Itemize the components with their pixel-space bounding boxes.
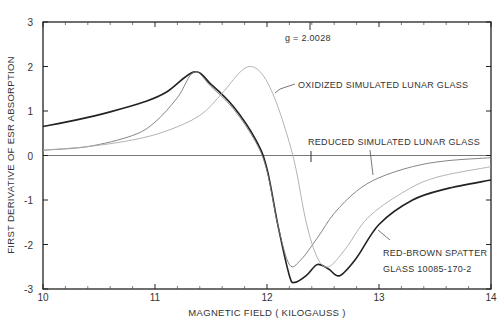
- y-tick-label: 3: [27, 17, 33, 28]
- y-tick-label: 2: [27, 62, 33, 73]
- x-tick-label: 10: [37, 292, 49, 303]
- reduced-label: REDUCED SIMULATED LUNAR GLASS: [308, 137, 480, 147]
- x-tick-label: 13: [373, 292, 385, 303]
- esr-chart: 10111213143210-1-2-3 MAGNETIC FIELD ( KI…: [0, 0, 504, 325]
- y-tick-label: 1: [27, 106, 33, 117]
- x-tick-label: 11: [150, 292, 161, 303]
- y-tick-label: 0: [27, 151, 33, 162]
- y-tick-label: -1: [24, 195, 33, 206]
- x-tick-label: 14: [485, 292, 497, 303]
- axis-ticks: 10111213143210-1-2-3: [24, 17, 497, 303]
- y-tick-label: -3: [24, 284, 33, 295]
- reduced-leader: [370, 150, 373, 175]
- red-brown-leader: [378, 230, 390, 240]
- g-value-label: g = 2.0028: [285, 33, 331, 43]
- x-axis-title: MAGNETIC FIELD ( KILOGAUSS ): [188, 307, 345, 318]
- red-brown-label-line2: GLASS 10085-170-2: [383, 264, 472, 274]
- x-tick-label: 12: [261, 292, 273, 303]
- y-axis-title: FIRST DERIVATIVE OF ESR ABSORPTION: [5, 56, 16, 254]
- y-tick-label: -2: [24, 240, 33, 251]
- axis-labels: MAGNETIC FIELD ( KILOGAUSS ) FIRST DERIV…: [5, 56, 346, 318]
- annotations: g = 2.0028 OXIDIZED SIMULATED LUNAR GLAS…: [275, 22, 487, 274]
- oxidized-label: OXIDIZED SIMULATED LUNAR GLASS: [298, 80, 468, 90]
- red-brown-label-line1: RED-BROWN SPATTER: [383, 248, 487, 258]
- oxidized-leader: [275, 84, 295, 93]
